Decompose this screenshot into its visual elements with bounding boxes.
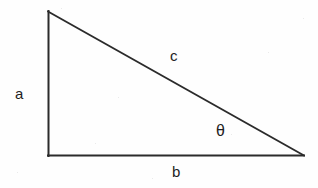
triangle-drawing (0, 0, 318, 188)
theta-angle-label: θ (216, 123, 225, 138)
hypotenuse-label: c (170, 48, 178, 63)
vertical-leg-label: a (15, 86, 24, 101)
hypotenuse-line (48, 12, 304, 156)
horizontal-leg-label: b (172, 164, 181, 179)
triangle-figure: a c b θ (0, 0, 318, 188)
